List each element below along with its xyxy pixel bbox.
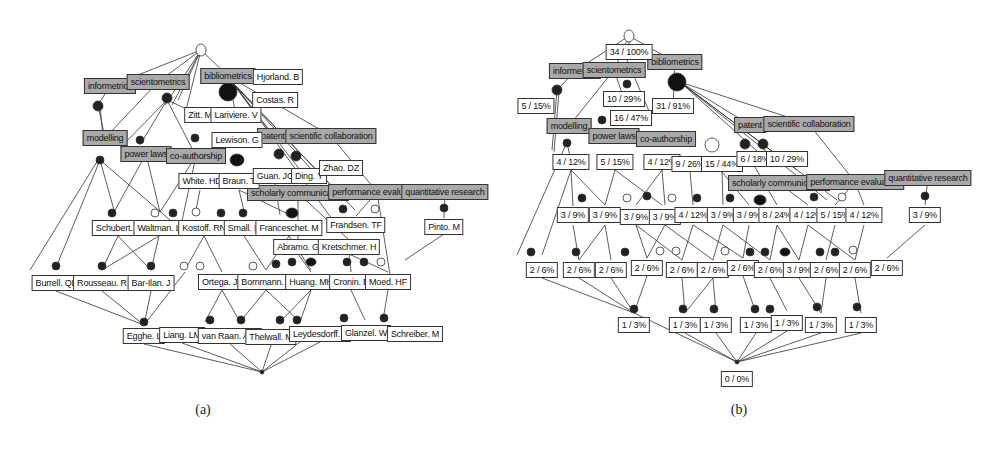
object-label: 2 / 6%	[839, 262, 871, 278]
attribute-label: power laws	[120, 146, 171, 162]
attribute-label: co-authorship	[636, 131, 696, 147]
attribute-label: co-authorship	[166, 148, 226, 164]
object-label: 3 / 9%	[589, 207, 621, 223]
object-label: Hjorland. B	[253, 69, 303, 85]
attribute-label: scientometrics	[583, 62, 646, 78]
object-label: Frandsen. TF	[326, 217, 385, 233]
object-label: Franceschet. M	[255, 220, 322, 236]
object-label: 10 / 29%	[603, 91, 645, 107]
object-label: 5 / 15%	[596, 154, 633, 170]
attribute-label: bibliometrics	[647, 54, 702, 70]
object-label: Waltman. L	[133, 220, 184, 236]
object-label: 1 / 3%	[700, 317, 732, 333]
lattice-panel-b: informetrics scientometrics bibliometric…	[497, 0, 994, 453]
object-label: Glanzel. W	[341, 325, 391, 341]
attribute-label: modelling	[83, 130, 128, 146]
object-label: 3 / 9%	[557, 207, 589, 223]
object-label: 1 / 3%	[805, 317, 837, 333]
object-label: 31 / 91%	[652, 98, 694, 114]
object-label: 1 / 3%	[771, 315, 803, 331]
object-label: Lewison. G	[211, 132, 262, 148]
object-label: 1 / 3%	[740, 317, 772, 333]
object-label: 3 / 9%	[909, 207, 941, 223]
object-label: 4 / 12%	[552, 154, 589, 170]
attribute-label: scientific collaboration	[285, 128, 376, 144]
attribute-label: modelling	[547, 118, 592, 134]
object-label: 2 / 6%	[697, 262, 729, 278]
attribute-label: scientific collaboration	[763, 116, 854, 132]
attribute-label: patent	[734, 117, 766, 133]
object-label: 2 / 6%	[526, 262, 558, 278]
object-label: Bar-Ilan. J	[128, 275, 175, 291]
object-label: Costas. R	[252, 92, 298, 108]
object-label: 4 / 12%	[845, 207, 882, 223]
object-label: 2 / 6%	[666, 262, 698, 278]
object-label: 2 / 6%	[871, 260, 903, 276]
object-label: 2 / 6%	[754, 262, 786, 278]
object-label: Schreiber. M	[387, 326, 443, 342]
panel-caption-a: (a)	[195, 402, 211, 418]
object-label: 1 / 3%	[845, 317, 877, 333]
object-label: Pinto. M	[424, 219, 463, 235]
attribute-label: bibliometrics	[200, 68, 255, 84]
panel-caption-b: (b)	[731, 402, 747, 418]
object-label: 16 / 47%	[610, 110, 652, 126]
object-label: 3 / 9%	[620, 209, 652, 225]
object-label: 2 / 6%	[810, 262, 842, 278]
object-label: Kretschmer. H	[318, 239, 380, 255]
object-label: 2 / 6%	[563, 262, 595, 278]
object-label: 0 / 0%	[721, 371, 753, 387]
object-label: 1 / 3%	[618, 317, 650, 333]
object-label: Kostoff. RN	[178, 220, 230, 236]
attribute-label: scientometrics	[127, 74, 190, 90]
object-label: 5 / 15%	[517, 98, 554, 114]
object-label: 1 / 3%	[669, 317, 701, 333]
object-label: 10 / 29%	[766, 151, 808, 167]
lattice-panel-a: informetrics scientometrics bibliometric…	[0, 0, 497, 453]
object-label: 34 / 100%	[606, 44, 653, 60]
object-label: Lariviere. V	[210, 107, 261, 123]
attribute-label: power laws	[588, 128, 639, 144]
object-label: Zhao. DZ	[319, 160, 363, 176]
object-label: 2 / 6%	[631, 260, 663, 276]
object-label: 2 / 6%	[595, 262, 627, 278]
object-label: Abramo. G	[273, 239, 323, 255]
attribute-label: quantitative research	[401, 184, 488, 200]
object-label: Rousseau. R	[73, 275, 131, 291]
attribute-label: quantitative research	[884, 170, 971, 186]
object-label: Moed. HF	[365, 274, 411, 290]
